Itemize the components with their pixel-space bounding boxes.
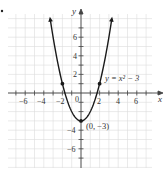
x-tick-label: −2 xyxy=(56,97,65,106)
y-tick-label: 6 xyxy=(73,33,77,42)
marked-point xyxy=(98,82,102,86)
bullet-marker xyxy=(1,10,3,12)
x-tick-label: −6 xyxy=(19,97,28,106)
origin-label: 0 xyxy=(75,95,79,104)
parabola-graph: x y −6 −4 −2 0 2 4 6 6 4 2 −4 −6 y = x² … xyxy=(0,0,166,170)
x-tick-label: −4 xyxy=(37,97,46,106)
curve-arrow-right-icon xyxy=(109,17,114,22)
curve-arrow-left-icon xyxy=(48,17,53,22)
y-axis-arrow-icon xyxy=(79,9,83,14)
vertex-label: (0, −3) xyxy=(86,121,109,131)
x-tick-label: 4 xyxy=(116,97,120,106)
marked-point xyxy=(79,119,83,123)
x-axis-label: x xyxy=(157,94,162,104)
equation-label: y = x² − 3 xyxy=(104,73,139,83)
marked-point xyxy=(61,82,65,86)
y-tick-label: −6 xyxy=(67,145,76,154)
x-tick-label: 6 xyxy=(134,97,138,106)
y-tick-label: −4 xyxy=(67,126,76,135)
x-tick-label: 2 xyxy=(97,97,101,106)
axes xyxy=(8,9,163,168)
y-axis-label: y xyxy=(71,6,76,16)
y-tick-label: 4 xyxy=(73,52,77,61)
y-tick-label: 2 xyxy=(73,70,77,79)
